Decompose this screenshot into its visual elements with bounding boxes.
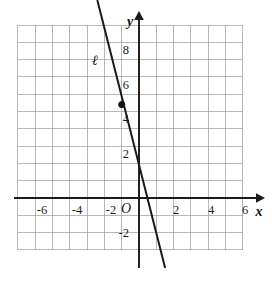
y-axis-label: y — [125, 14, 134, 29]
x-tick-label: -2 — [106, 203, 116, 217]
coordinate-plane-svg: -6 -4 -2 2 4 6 8 6 4 2 -2 O x y ℓ — [0, 0, 274, 281]
x-tick-labels: -6 -4 -2 2 4 6 — [37, 203, 248, 217]
y-tick-label: 6 — [123, 78, 129, 92]
y-axis-arrow-icon — [134, 11, 144, 20]
axes — [14, 11, 265, 268]
y-tick-label: 2 — [123, 147, 129, 161]
graph-line-l — [97, 1, 164, 267]
x-tick-label: -6 — [37, 203, 47, 217]
plotted-point — [119, 101, 125, 107]
x-tick-label: 6 — [242, 203, 248, 217]
y-tick-label: 8 — [123, 43, 129, 57]
x-tick-label: -4 — [72, 203, 83, 217]
y-tick-label: -2 — [119, 226, 129, 240]
x-axis-arrow-icon — [256, 193, 265, 203]
line-label-l: ℓ — [92, 53, 98, 68]
coordinate-plane-figure: -6 -4 -2 2 4 6 8 6 4 2 -2 O x y ℓ — [0, 0, 274, 281]
origin-label: O — [121, 201, 131, 216]
x-tick-label: 4 — [208, 203, 215, 217]
x-tick-label: 2 — [173, 203, 179, 217]
x-axis-label: x — [255, 204, 263, 219]
